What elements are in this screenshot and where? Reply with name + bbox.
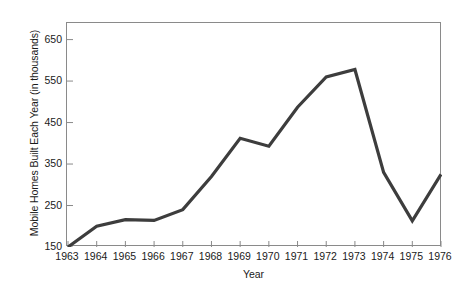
y-tick-label: 450 — [22, 117, 62, 128]
x-axis-tick-labels: 1963196419651966196719681969197019711972… — [66, 250, 441, 264]
x-tick-label: 1976 — [420, 250, 460, 262]
y-tick-label: 350 — [22, 158, 62, 169]
y-tick-label: 650 — [22, 34, 62, 45]
data-series-line — [68, 69, 441, 247]
y-tick-label: 250 — [22, 200, 62, 211]
line-chart-svg — [67, 23, 442, 247]
y-tick-label: 550 — [22, 75, 62, 86]
x-axis-tick-marks — [68, 241, 441, 247]
x-axis-title: Year — [66, 268, 441, 280]
plot-area — [66, 22, 441, 246]
y-axis-tick-labels: 150250350450550650 — [18, 22, 62, 246]
chart-figure: Mobile Homes Built Each Year (in thousan… — [0, 0, 474, 290]
y-axis-tick-marks — [67, 40, 73, 247]
